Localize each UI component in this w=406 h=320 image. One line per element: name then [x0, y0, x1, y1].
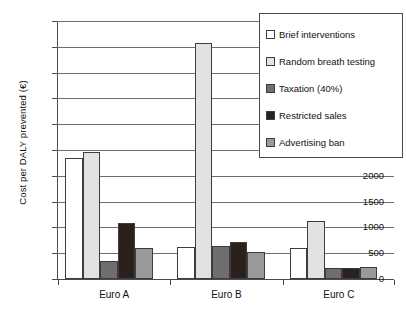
x-axis-tick-mark	[283, 280, 284, 285]
legend-item-label: Advertising ban	[279, 138, 344, 148]
legend-item[interactable]: Taxation (40%)	[266, 75, 396, 102]
legend-item-label: Brief interventions	[279, 30, 355, 40]
y-axis-tick-label: 1500	[342, 197, 384, 207]
bar	[307, 221, 325, 279]
y-axis-tick-mark	[52, 150, 57, 151]
legend-item-label: Taxation (40%)	[279, 84, 342, 94]
y-axis-tick-label: 2000	[342, 171, 384, 181]
bar	[118, 223, 136, 279]
legend-item[interactable]: Random breath testing	[266, 48, 396, 75]
legend-item-label: Restricted sales	[279, 111, 347, 121]
bar	[290, 248, 308, 279]
bar	[212, 246, 230, 279]
legend-item[interactable]: Brief interventions	[266, 21, 396, 48]
y-axis-tick-mark	[52, 73, 57, 74]
y-axis-tick-mark	[52, 279, 57, 280]
bar	[177, 247, 195, 279]
legend-item[interactable]: Restricted sales	[266, 102, 396, 129]
x-axis-tick-mark	[170, 280, 171, 285]
y-axis-tick-mark	[52, 176, 57, 177]
bar	[325, 268, 343, 279]
legend-swatch-icon	[266, 30, 275, 39]
bar	[195, 43, 213, 279]
y-axis-tick-mark	[52, 253, 57, 254]
bar	[247, 252, 265, 279]
bar	[360, 267, 378, 279]
legend-item-label: Random breath testing	[279, 57, 375, 67]
legend-rows: Brief interventionsRandom breath testing…	[266, 21, 396, 156]
x-axis-category-label: Euro C	[294, 289, 384, 300]
x-axis-category-label: Euro B	[182, 289, 272, 300]
legend: Brief interventionsRandom breath testing…	[259, 13, 403, 158]
bar	[83, 152, 101, 279]
y-axis-tick-label: 500	[342, 248, 384, 258]
bar	[100, 261, 118, 279]
y-axis-tick-mark	[52, 98, 57, 99]
x-axis-tick-mark	[394, 280, 395, 285]
bar	[135, 248, 153, 279]
y-axis-tick-mark	[52, 202, 57, 203]
y-axis-tick-mark	[52, 21, 57, 22]
legend-swatch-icon	[266, 84, 275, 93]
y-axis-tick-label: 1000	[342, 222, 384, 232]
legend-swatch-icon	[266, 57, 275, 66]
x-axis-tick-mark	[58, 280, 59, 285]
legend-swatch-icon	[266, 138, 275, 147]
y-axis-tick-mark	[52, 124, 57, 125]
bar	[342, 268, 360, 279]
y-axis-tick-mark	[52, 227, 57, 228]
y-axis-tick-mark	[52, 47, 57, 48]
legend-swatch-icon	[266, 111, 275, 120]
x-axis-category-label: Euro A	[69, 289, 159, 300]
bar	[230, 242, 248, 279]
bar-chart: Cost per DALY prevented (€) 500045004000…	[0, 0, 406, 320]
legend-item[interactable]: Advertising ban	[266, 129, 396, 156]
y-axis-title: Cost per DALY prevented (€)	[17, 43, 28, 243]
bar	[65, 158, 83, 279]
